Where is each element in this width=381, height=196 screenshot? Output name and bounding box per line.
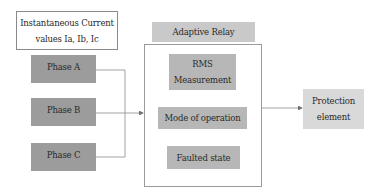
rms-measurement-box: RMS Measurement [169,54,236,90]
phase-a-box: Phase A [31,55,96,83]
phase-a-label: Phase A [47,59,80,75]
phase-c-box: Phase C [31,143,96,171]
input-values-line1: Instantaneous Current [20,15,114,31]
input-values-box: Instantaneous Current values Ia, Ib, Ic [16,11,118,50]
protection-line1: Protection [312,93,355,109]
adaptive-relay-title: Adaptive Relay [152,22,255,42]
input-values-line2: values Ia, Ib, Ic [36,31,99,47]
protection-element-box: Protection element [303,89,364,129]
rms-line2: Measurement [174,72,232,88]
protection-line2: element [317,109,350,125]
rms-line1: RMS [192,56,212,72]
mode-of-operation-label: Mode of operation [164,110,240,126]
mode-of-operation-box: Mode of operation [158,107,247,129]
adaptive-relay-title-text: Adaptive Relay [173,24,235,40]
phase-b-label: Phase B [47,102,80,118]
phase-b-box: Phase B [31,98,96,126]
faulted-state-box: Faulted state [167,146,240,169]
phase-c-label: Phase C [47,147,80,163]
faulted-state-label: Faulted state [177,150,231,166]
